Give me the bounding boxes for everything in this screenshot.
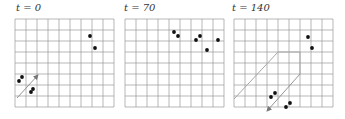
particle-dot — [198, 34, 202, 38]
grid-panel-0 — [15, 19, 114, 107]
direction-arrow-icon — [267, 74, 300, 111]
particle-dot — [20, 75, 24, 79]
particle-dot — [88, 34, 92, 38]
particle-dot — [216, 38, 220, 42]
particle-dot — [176, 34, 180, 38]
particle-dot — [306, 35, 310, 39]
particle-dot — [194, 38, 198, 42]
grid-panel-1 — [125, 19, 224, 107]
particle-dot — [17, 79, 21, 83]
particle-dot — [93, 46, 97, 50]
particle-dot — [284, 105, 288, 109]
particle-dot — [273, 91, 277, 95]
particle-dot — [29, 90, 33, 94]
particle-dot — [172, 30, 176, 34]
grid-panel-2 — [234, 19, 333, 111]
direction-arrow-icon — [17, 75, 38, 98]
particle-dot — [288, 101, 292, 105]
particle-dot — [205, 48, 209, 52]
particle-grid-figure — [0, 0, 345, 119]
particle-dot — [310, 46, 314, 50]
particle-dot — [269, 95, 273, 99]
